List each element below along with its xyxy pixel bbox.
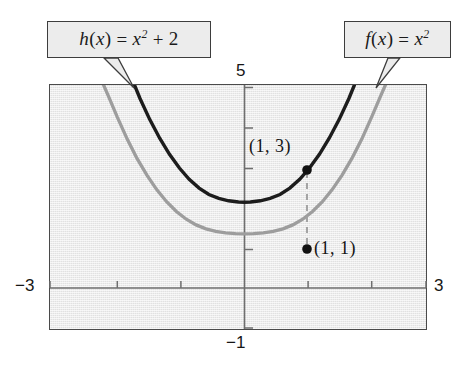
equation-h: h(x)=x2+2	[79, 28, 179, 50]
equation-h-var: x	[96, 29, 105, 50]
point-marker-h	[302, 165, 312, 175]
equation-h-equals: =	[111, 29, 132, 50]
x-axis-min-label: −3	[15, 276, 34, 296]
equation-f-base: x	[414, 29, 423, 50]
x-axis-max-label: 3	[434, 276, 443, 296]
point-label-h: (1, 3)	[249, 136, 291, 157]
equation-h-exponent: 2	[141, 28, 147, 41]
y-axis-max-label: 5	[236, 61, 245, 81]
y-axis-min-label: −1	[226, 333, 245, 353]
equation-h-func: h	[79, 29, 89, 50]
callout-f-label: f(x)=x2	[344, 21, 451, 58]
equation-f-exponent: 2	[423, 28, 429, 41]
callout-tail-f	[376, 58, 400, 88]
y-axis-ticks	[245, 88, 254, 329]
point-marker-f	[302, 244, 312, 254]
equation-h-plus: +	[148, 29, 169, 50]
equation-f-var: x	[378, 29, 387, 50]
x-axis-ticks	[50, 281, 426, 288]
equation-f: f(x)=x2	[365, 28, 429, 50]
equation-f-equals: =	[393, 29, 414, 50]
graph-figure: h(x)=x2+2 f(x)=x2 5 −3 3 −1 (1, 3) (1, 1…	[0, 0, 468, 371]
point-label-f: (1, 1)	[314, 238, 356, 259]
equation-h-constant: 2	[169, 29, 179, 50]
callout-tail-h	[104, 58, 134, 88]
callout-h-label: h(x)=x2+2	[47, 21, 211, 58]
